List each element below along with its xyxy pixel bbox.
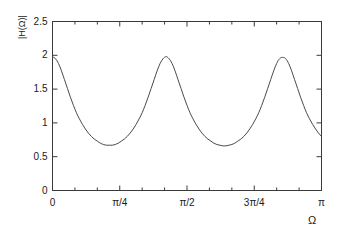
y-tick-label: 0.5 [34,151,48,162]
x-tick-label: π [302,197,342,208]
x-tick-label: 3π/4 [234,197,274,208]
chart-figure: |H(Ω)| Ω 00.511.522.5 0π/4π/23π/4π [0,0,344,238]
y-tick-label: 1 [42,117,48,128]
y-tick-label: 2.5 [34,16,48,27]
y-axis-label: |H(Ω)| [17,23,27,39]
x-tick-label: π/2 [167,197,207,208]
magnitude-response-curve [53,57,322,146]
x-tick-label: π/4 [100,197,140,208]
x-tick-label: 0 [33,197,73,208]
y-tick-label: 0 [42,185,48,196]
x-axis-label: Ω [308,214,316,226]
y-tick-label: 2 [42,49,48,60]
y-tick-label: 1.5 [34,83,48,94]
